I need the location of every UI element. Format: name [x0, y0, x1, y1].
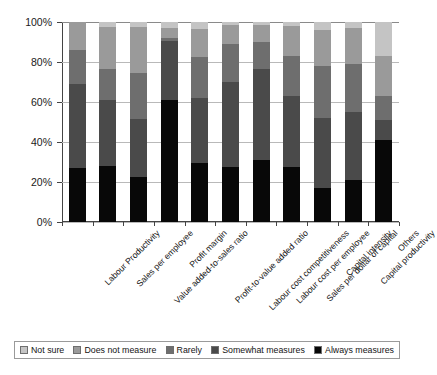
bar-10	[345, 22, 362, 222]
bar-segment	[314, 188, 331, 222]
bar-1	[69, 22, 86, 222]
bar-segment	[222, 82, 239, 167]
bar-segment	[283, 56, 300, 96]
legend-item-4[interactable]: Somewhat measures	[211, 345, 305, 355]
bar-11	[375, 22, 392, 222]
bar-2	[99, 22, 116, 222]
bar-segment	[253, 160, 270, 222]
bar-segment	[191, 57, 208, 98]
bar-segment	[253, 22, 270, 25]
legend-label: Rarely	[177, 345, 202, 355]
bar-3	[130, 22, 147, 222]
bar-segment	[253, 42, 270, 69]
y-axis: 0%20%40%60%80%100%	[0, 0, 62, 240]
bar-segment	[191, 22, 208, 29]
bar-segment	[375, 22, 392, 56]
bar-segment	[283, 26, 300, 56]
bar-segment	[191, 163, 208, 222]
bar-8	[283, 22, 300, 222]
bar-segment	[222, 25, 239, 44]
x-axis-label: Labour cost competitiveness	[266, 228, 350, 312]
bar-5	[191, 22, 208, 222]
bar-segment	[130, 27, 147, 73]
x-axis-label: Sales per employee	[134, 228, 195, 289]
bar-segment	[314, 22, 331, 30]
bar-segment	[161, 28, 178, 38]
bar-7	[253, 22, 270, 222]
legend-item-3[interactable]: Rarely	[166, 345, 202, 355]
bar-segment	[283, 96, 300, 167]
bar-segment	[161, 38, 178, 41]
bar-segment	[191, 29, 208, 57]
bar-segment	[375, 96, 392, 120]
bar-segment	[130, 177, 147, 222]
bar-segment	[161, 100, 178, 222]
bar-segment	[345, 112, 362, 180]
legend-item-2[interactable]: Does not measure	[73, 345, 156, 355]
bar-segment	[345, 180, 362, 222]
bar-segment	[222, 167, 239, 222]
legend-label: Not sure	[31, 345, 64, 355]
bar-segment	[99, 22, 116, 27]
y-tick-label: 40%	[31, 137, 52, 148]
bar-segment	[375, 56, 392, 96]
bars-layer	[62, 22, 399, 222]
bar-segment	[99, 100, 116, 166]
legend-swatch-icon	[20, 346, 28, 354]
bar-segment	[253, 25, 270, 42]
legend-item-5[interactable]: Always measures	[314, 345, 394, 355]
legend-label: Does not measure	[84, 345, 156, 355]
bar-segment	[69, 22, 86, 50]
legend-swatch-icon	[166, 346, 174, 354]
legend-swatch-icon	[73, 346, 81, 354]
bar-6	[222, 22, 239, 222]
bar-segment	[314, 118, 331, 188]
legend-label: Always measures	[325, 345, 394, 355]
legend-item-1[interactable]: Not sure	[20, 345, 64, 355]
bar-segment	[161, 41, 178, 100]
bar-segment	[130, 119, 147, 177]
bar-segment	[345, 64, 362, 112]
bar-segment	[191, 98, 208, 163]
legend-swatch-icon	[314, 346, 322, 354]
x-axis-label: Labour Productivity	[103, 228, 162, 287]
bar-segment	[99, 27, 116, 69]
bar-segment	[69, 50, 86, 84]
bar-segment	[130, 22, 147, 27]
bar-segment	[314, 66, 331, 118]
plot-area	[62, 22, 399, 222]
bar-segment	[375, 120, 392, 140]
y-tick-label: 80%	[31, 57, 52, 68]
legend-swatch-icon	[211, 346, 219, 354]
x-axis-labels: Labour ProductivitySales per employeeVal…	[0, 226, 413, 331]
y-tick-label: 100%	[25, 17, 52, 28]
bar-9	[314, 22, 331, 222]
bar-segment	[69, 168, 86, 222]
bar-segment	[314, 30, 331, 66]
bar-segment	[222, 22, 239, 25]
bar-segment	[283, 167, 300, 222]
bar-segment	[375, 140, 392, 222]
y-tick-label: 20%	[31, 177, 52, 188]
bar-segment	[345, 22, 362, 28]
y-tick-label: 60%	[31, 97, 52, 108]
bar-segment	[222, 44, 239, 82]
bar-segment	[99, 69, 116, 100]
bar-segment	[283, 22, 300, 26]
bar-4	[161, 22, 178, 222]
gridline	[62, 222, 399, 223]
bar-segment	[130, 73, 147, 119]
bar-segment	[161, 22, 178, 28]
legend-label: Somewhat measures	[222, 345, 305, 355]
bar-segment	[345, 28, 362, 64]
chart-legend: Not sureDoes not measureRarelySomewhat m…	[14, 341, 400, 359]
bar-segment	[99, 166, 116, 222]
bar-segment	[253, 69, 270, 160]
bar-segment	[69, 84, 86, 168]
